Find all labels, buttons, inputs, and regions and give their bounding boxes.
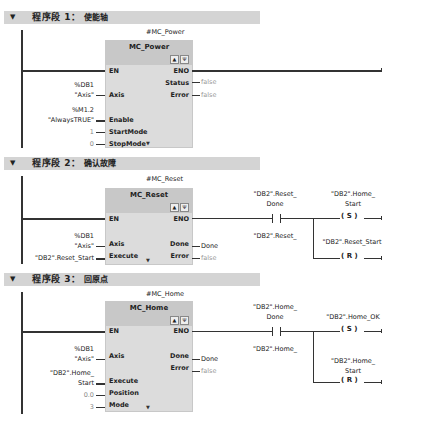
collapse-icon[interactable]: ▼ — [10, 157, 15, 170]
error-value: false — [201, 91, 216, 99]
operand[interactable]: %DB1 — [74, 345, 94, 353]
operand[interactable]: %M1.2 — [72, 106, 94, 114]
block-name: MC_Power — [106, 43, 192, 51]
block-icon-1[interactable]: ▲ — [170, 203, 179, 212]
block-icon-1[interactable]: ▲ — [170, 55, 179, 64]
network-comment[interactable]: 确认故障 — [84, 157, 116, 170]
pin-eno: ENO — [174, 215, 189, 223]
pin-axis: Axis — [109, 240, 124, 248]
coil-operand[interactable]: "DB2".Reset_Start — [312, 238, 392, 246]
network-title: 程序段 1： — [32, 11, 80, 24]
pin-error: Error — [170, 91, 189, 99]
network-title: 程序段 2： — [32, 157, 80, 170]
pin-error: Error — [170, 252, 189, 260]
operand[interactable]: "AlwaysTRUE" — [48, 116, 94, 124]
pin-eno: ENO — [174, 67, 189, 75]
operand[interactable]: 3 — [90, 403, 94, 411]
reset-coil[interactable]: ( R ) — [341, 252, 358, 260]
block-icon-2[interactable]: Ψ — [180, 55, 189, 64]
pin-enable: Enable — [109, 116, 134, 124]
network-3-header[interactable]: ▼ 程序段 3： 回原点 — [4, 273, 260, 286]
network-comment[interactable]: 使能轴 — [84, 11, 108, 24]
network-2-header[interactable]: ▼ 程序段 2： 确认故障 — [4, 157, 260, 170]
coil-operand[interactable]: "DB2".Home_ — [318, 190, 388, 198]
operand[interactable]: "Axis" — [75, 242, 94, 250]
contact-operand[interactable]: "DB2".Reset_ — [240, 190, 310, 198]
block-icon-2[interactable]: Ψ — [180, 203, 189, 212]
pin-mode: Mode — [109, 401, 129, 409]
coil-operand[interactable]: Start — [318, 367, 388, 375]
done-operand[interactable]: Done — [201, 355, 218, 363]
pin-en: EN — [109, 67, 119, 75]
power-rail — [21, 176, 23, 264]
contact-operand[interactable]: Done — [240, 313, 310, 321]
power-rail — [21, 292, 23, 414]
pin-startmode: StartMode — [109, 128, 147, 136]
expand-more-icon[interactable]: ▼ — [146, 404, 150, 410]
operand[interactable]: "DB2".Reset_Start — [35, 254, 94, 262]
power-rail — [21, 30, 23, 148]
coil-operand[interactable]: "DB2".Home_ — [318, 357, 388, 365]
coil-operand[interactable]: "DB2".Home_OK — [318, 313, 388, 321]
operand[interactable]: "DB2".Home_ — [50, 369, 94, 377]
done-operand[interactable]: Done — [201, 242, 218, 250]
coil-operand[interactable]: Start — [318, 200, 388, 208]
pin-axis: Axis — [109, 352, 124, 360]
collapse-icon[interactable]: ▼ — [10, 11, 15, 24]
mc-home-block[interactable]: MC_Home ▲Ψ EN Axis Execute Position Mode… — [105, 301, 193, 412]
pin-en: EN — [109, 327, 119, 335]
pin-execute: Execute — [109, 252, 138, 260]
pin-position: Position — [109, 389, 139, 397]
pin-axis: Axis — [109, 91, 124, 99]
operand[interactable]: Start — [78, 379, 94, 387]
expand-more-icon[interactable]: ▼ — [146, 257, 150, 263]
block-icon-2[interactable]: Ψ — [180, 316, 189, 325]
block-icon-1[interactable]: ▲ — [170, 316, 179, 325]
instance-db[interactable]: #MC_Reset — [146, 175, 183, 183]
mc-reset-block[interactable]: MC_Reset ▲Ψ EN Axis Execute ENO Done Err… — [105, 188, 193, 265]
network-comment[interactable]: 回原点 — [84, 273, 108, 286]
done-operand[interactable]: "DB2".Reset_ — [240, 232, 310, 240]
block-name: MC_Home — [106, 304, 192, 312]
block-name: MC_Reset — [106, 191, 192, 199]
mc-power-block[interactable]: MC_Power ▲Ψ EN Axis Enable StartMode Sto… — [105, 40, 193, 148]
pin-error: Error — [170, 364, 189, 372]
instance-db[interactable]: #MC_Power — [146, 28, 185, 36]
operand[interactable]: 1 — [90, 128, 94, 136]
set-coil[interactable]: ( S ) — [341, 212, 357, 220]
error-value: false — [201, 254, 216, 262]
contact-operand[interactable]: "DB2".Home_ — [240, 303, 310, 311]
pin-done: Done — [170, 352, 189, 360]
pin-done: Done — [170, 240, 189, 248]
status-value: false — [201, 78, 216, 86]
collapse-icon[interactable]: ▼ — [10, 273, 15, 286]
expand-more-icon[interactable]: ▼ — [146, 140, 150, 146]
operand[interactable]: %DB1 — [74, 81, 94, 89]
set-coil[interactable]: ( S ) — [341, 325, 357, 333]
contact-operand[interactable]: Done — [240, 200, 310, 208]
pin-execute: Execute — [109, 377, 138, 385]
operand[interactable]: "Axis" — [75, 355, 94, 363]
network-1-header[interactable]: ▼ 程序段 1： 使能轴 — [4, 11, 260, 24]
pin-status: Status — [165, 79, 189, 87]
operand[interactable]: %DB1 — [74, 232, 94, 240]
operand[interactable]: "Axis" — [75, 91, 94, 99]
operand[interactable]: 0 — [90, 140, 94, 148]
operand[interactable]: 0.0 — [84, 391, 94, 399]
error-value: false — [201, 367, 216, 375]
reset-coil[interactable]: ( R ) — [341, 376, 358, 384]
network-title: 程序段 3： — [32, 273, 80, 286]
pin-eno: ENO — [174, 327, 189, 335]
pin-stopmode: StopMode — [109, 140, 146, 148]
pin-en: EN — [109, 215, 119, 223]
instance-db[interactable]: #MC_Home — [146, 290, 184, 298]
done-operand[interactable]: "DB2".Home_ — [240, 345, 310, 353]
